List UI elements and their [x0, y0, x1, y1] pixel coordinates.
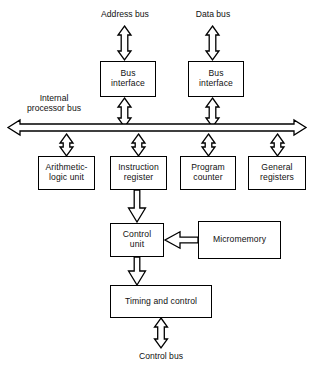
- internal-processor-bus-label: Internal processor bus: [8, 94, 100, 114]
- micromemory-box: Micromemory: [198, 221, 281, 259]
- program-counter-box: Program counter: [180, 156, 236, 190]
- cpu-block-diagram: .ln{fill:#ffffff;stroke:#000000;stroke-w…: [0, 0, 316, 374]
- micromemory-to-control-unit-arrow: [165, 232, 198, 248]
- control-unit-to-timing-arrow: [129, 257, 146, 285]
- general-registers-box: General registers: [248, 156, 306, 190]
- instruction-register-to-control-unit-arrow: [129, 190, 146, 222]
- address-interface-bus-arrow: [118, 98, 131, 127]
- program-counter-label: Program counter: [189, 163, 227, 182]
- data-interface-bus-arrow: [206, 98, 219, 127]
- arithmetic-logic-unit-box: Arithmetic- logic unit: [38, 156, 95, 190]
- instruction-register-label: Instruction register: [116, 163, 161, 182]
- timing-and-control-box: Timing and control: [110, 285, 212, 318]
- bus-interface-data-label: Bus interface: [197, 69, 235, 88]
- bus-interface-address-box: Bus interface: [100, 61, 156, 97]
- bus-to-instruction-register-arrow: [132, 134, 145, 156]
- bus-to-alu-arrow: [60, 134, 73, 156]
- control-unit-box: Control unit: [110, 223, 164, 257]
- bus-to-program-counter-arrow: [202, 134, 215, 156]
- timing-to-control-bus-arrow: [155, 318, 168, 348]
- data-bus-arrow: [206, 26, 219, 60]
- general-registers-label: General registers: [258, 163, 296, 182]
- address-bus-label: Address bus: [86, 10, 164, 20]
- control-unit-label: Control unit: [121, 230, 153, 249]
- bus-interface-address-label: Bus interface: [109, 69, 147, 88]
- arithmetic-logic-unit-label: Arithmetic- logic unit: [43, 163, 89, 182]
- instruction-register-box: Instruction register: [110, 156, 167, 190]
- micromemory-label: Micromemory: [211, 235, 268, 245]
- internal-processor-bus-arrow: [8, 120, 306, 135]
- bus-to-general-registers-arrow: [271, 134, 284, 156]
- data-bus-label: Data bus: [178, 10, 248, 20]
- timing-and-control-label: Timing and control: [123, 297, 199, 307]
- address-bus-arrow: [118, 26, 131, 60]
- bus-interface-data-box: Bus interface: [188, 61, 244, 97]
- control-bus-label: Control bus: [122, 352, 200, 362]
